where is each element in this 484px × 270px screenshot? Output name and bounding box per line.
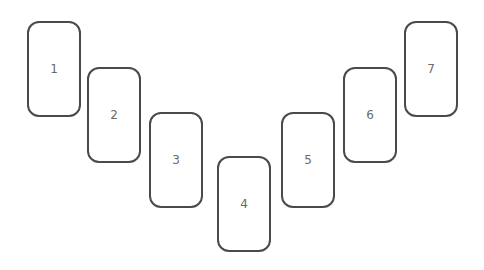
card-number: 5 bbox=[304, 154, 312, 166]
card-number: 2 bbox=[110, 109, 118, 121]
card-position-2: 2 bbox=[87, 67, 141, 163]
card-position-6: 6 bbox=[343, 67, 397, 163]
card-number: 1 bbox=[50, 63, 58, 75]
card-number: 3 bbox=[172, 154, 180, 166]
card-number: 7 bbox=[427, 63, 435, 75]
card-position-3: 3 bbox=[149, 112, 203, 208]
card-position-1: 1 bbox=[27, 21, 81, 117]
card-position-5: 5 bbox=[281, 112, 335, 208]
card-number: 6 bbox=[366, 109, 374, 121]
card-position-7: 7 bbox=[404, 21, 458, 117]
card-number: 4 bbox=[240, 198, 248, 210]
card-position-4: 4 bbox=[217, 156, 271, 252]
card-spread-diagram: 1 2 3 4 5 6 7 bbox=[0, 0, 484, 270]
